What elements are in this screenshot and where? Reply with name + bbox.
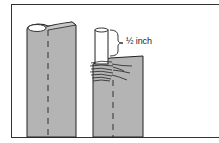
dowel xyxy=(95,28,108,64)
left-fabric-panel xyxy=(27,22,76,137)
dimension-brace xyxy=(110,30,123,56)
dimension-label: ½ inch xyxy=(126,36,152,46)
illustration xyxy=(0,0,219,143)
